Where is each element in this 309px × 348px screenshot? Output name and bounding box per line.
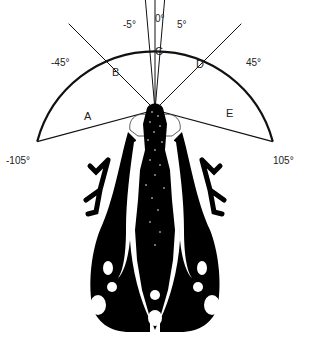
sector-label-c: C [155, 45, 163, 57]
sector-label-d: D [196, 58, 204, 70]
angle-label-0: 0° [155, 13, 165, 24]
beetle-angle-diagram: -105° -45° -5° 0° 5° 45° 105° A B C D E [0, 0, 309, 348]
right-foreleg [202, 160, 224, 214]
angle-label-minus-105: -105° [6, 155, 30, 166]
elytra-spot [193, 282, 203, 292]
angle-label-plus-5: 5° [177, 19, 187, 30]
elytra-spot [90, 295, 106, 315]
elytra-spot [204, 295, 220, 315]
angle-label-plus-45: 45° [246, 57, 261, 68]
elytra-spot [197, 261, 207, 275]
diagram-canvas: -105° -45° -5° 0° 5° 45° 105° A B C D E [0, 0, 309, 348]
angle-label-minus-45: -45° [51, 57, 69, 68]
left-foreleg [86, 160, 108, 214]
sector-label-b: B [112, 66, 119, 78]
central-spot [150, 290, 160, 300]
sector-label-e: E [226, 107, 233, 119]
elytra-spot [103, 261, 113, 275]
angle-label-minus-5: -5° [123, 19, 136, 30]
elytra-spot [107, 282, 117, 292]
sector-label-a: A [84, 110, 92, 122]
central-spot [148, 310, 162, 326]
angle-label-plus-105: 105° [273, 155, 294, 166]
ray-minus-5 [144, 0, 155, 110]
beetle-illustration [86, 104, 224, 333]
